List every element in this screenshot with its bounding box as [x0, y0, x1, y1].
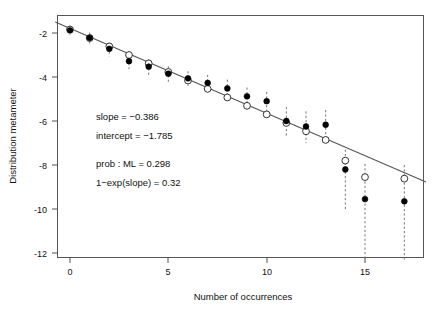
x-tick-label: 0: [67, 267, 72, 277]
observed-point: [224, 86, 230, 92]
annotation-prob-ml: prob : ML = 0.298: [96, 158, 170, 169]
figure-background: [0, 0, 437, 319]
fitted-point: [244, 102, 251, 109]
observed-point: [205, 80, 211, 86]
y-tick-label: -10: [34, 205, 47, 215]
observed-point: [146, 64, 152, 70]
observed-point: [323, 122, 329, 128]
y-tick-label: -12: [34, 249, 47, 259]
observed-point: [165, 71, 171, 77]
observed-point: [244, 93, 250, 99]
observed-point: [401, 198, 407, 204]
observed-point: [185, 75, 191, 81]
y-tick-label: -6: [39, 117, 47, 127]
observed-point: [87, 35, 93, 41]
annotation-exp-slope: 1−exp(slope) = 0.32: [96, 177, 181, 188]
observed-point: [362, 196, 368, 202]
fitted-point: [263, 111, 270, 118]
observed-point: [264, 98, 270, 104]
x-tick-label: 15: [360, 267, 370, 277]
x-axis-title: Number of occurrences: [194, 291, 293, 302]
scatter-plot-figure: -2 -4 -6 -8 -10 -12 0 5 10 15 Number of …: [0, 0, 437, 319]
x-tick-label: 5: [165, 267, 170, 277]
fitted-point: [401, 175, 408, 182]
fitted-point: [126, 52, 133, 59]
x-tick-label: 10: [262, 267, 272, 277]
y-axis-title: Distribution metameter: [7, 88, 18, 184]
annotation-intercept: intercept = −1.785: [96, 130, 173, 141]
y-tick-label: -8: [39, 161, 47, 171]
observed-point: [126, 58, 132, 64]
y-tick-label: -4: [39, 73, 47, 83]
fitted-point: [224, 94, 231, 101]
annotation-slope: slope = −0.386: [96, 111, 159, 122]
observed-point: [283, 118, 289, 124]
fitted-point: [342, 157, 349, 164]
fitted-point: [204, 85, 211, 92]
fitted-point: [362, 174, 369, 181]
observed-point: [303, 124, 309, 130]
y-tick-label: -2: [39, 29, 47, 39]
observed-point: [342, 167, 348, 173]
observed-point: [67, 27, 73, 33]
fitted-point: [322, 137, 329, 144]
observed-point: [106, 46, 112, 52]
